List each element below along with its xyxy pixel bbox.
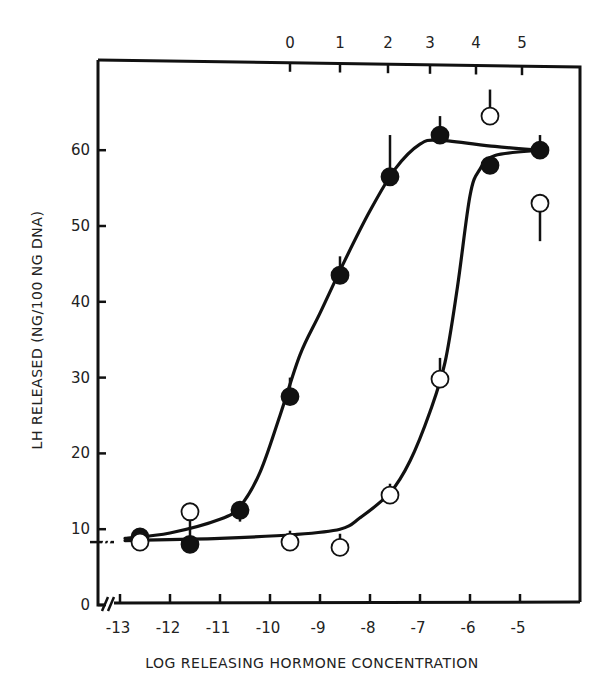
open-data-point — [482, 108, 499, 125]
x-tick-label: -9 — [311, 619, 326, 637]
filled-data-point — [232, 502, 249, 519]
x-tick-label: -12 — [156, 619, 181, 637]
y-tick-label: 50 — [71, 217, 90, 235]
filled-data-point — [332, 267, 349, 284]
x-tick-label: -5 — [511, 619, 526, 637]
fit-curves — [125, 140, 540, 540]
top-tick-label: 3 — [425, 34, 435, 52]
y-axis-line — [98, 60, 104, 605]
x-axis-line — [114, 602, 580, 603]
x-tick-label: -6 — [461, 619, 476, 637]
top-tick-label: 5 — [517, 34, 527, 52]
y-tick-label: 10 — [71, 520, 90, 538]
open-data-point — [282, 534, 299, 551]
x-tick-label: -11 — [206, 619, 231, 637]
axis-labels: 0102030405060-13-12-11-10-9-8-7-6-501234… — [29, 34, 527, 671]
open-data-point — [432, 371, 449, 388]
top-tick-label: 1 — [335, 34, 345, 52]
open-data-point — [332, 539, 349, 556]
top-tick-label: 2 — [383, 34, 393, 52]
open-data-point — [182, 503, 199, 520]
data-points — [132, 90, 549, 556]
top-tick-label: 4 — [471, 34, 481, 52]
x-tick-label: -10 — [256, 619, 281, 637]
open-data-point — [532, 195, 549, 212]
y-tick-label: 60 — [71, 141, 90, 159]
y-tick-label: 0 — [80, 596, 90, 614]
y-tick-label: 20 — [71, 444, 90, 462]
open-data-point — [382, 487, 399, 504]
top-tick-label: 0 — [285, 34, 295, 52]
top-right-axis-line — [98, 60, 580, 602]
dose-response-chart: 0102030405060-13-12-11-10-9-8-7-6-501234… — [0, 0, 591, 696]
x-axis-title: LOG RELEASING HORMONE CONCENTRATION — [145, 655, 479, 671]
x-tick-label: -7 — [411, 619, 426, 637]
filled-data-point — [282, 388, 299, 405]
filled-data-point — [182, 536, 199, 553]
y-axis-title: LH RELEASED (NG/100 NG DNA) — [29, 211, 45, 450]
open-data-point — [132, 534, 149, 551]
y-tick-label: 30 — [71, 369, 90, 387]
fit-curve — [125, 150, 540, 540]
filled-data-point — [432, 127, 449, 144]
x-tick-label: -8 — [361, 619, 376, 637]
fit-curve — [125, 140, 540, 538]
x-tick-label: -13 — [106, 619, 131, 637]
plot-frame — [90, 60, 580, 611]
filled-data-point — [482, 157, 499, 174]
filled-data-point — [532, 142, 549, 159]
y-tick-label: 40 — [71, 293, 90, 311]
filled-data-point — [382, 168, 399, 185]
